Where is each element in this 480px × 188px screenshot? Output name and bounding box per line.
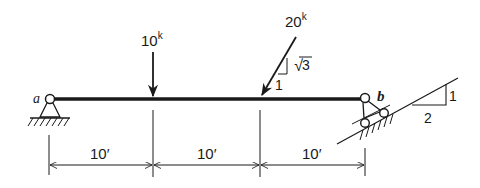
load-10k-magnitude: 10k bbox=[141, 30, 164, 49]
support-a-label: a bbox=[33, 91, 40, 106]
span-2-label: 10′ bbox=[197, 145, 217, 162]
load-20k-magnitude: 20k bbox=[285, 11, 308, 30]
support-b-label: b bbox=[377, 88, 385, 104]
load-20k-sqrt-value: 3 bbox=[302, 57, 310, 73]
incline-surface bbox=[337, 78, 458, 144]
span-3-label: 10′ bbox=[302, 145, 322, 162]
span-1-label: 10′ bbox=[90, 145, 110, 162]
beam-diagram: a b 1 2 10k 20k √√3 bbox=[0, 0, 480, 188]
dimension-lines bbox=[49, 110, 365, 177]
load-20k-slope-run: 1 bbox=[275, 77, 283, 93]
incline-rise-label: 1 bbox=[449, 88, 457, 104]
incline-run-label: 2 bbox=[424, 110, 432, 126]
